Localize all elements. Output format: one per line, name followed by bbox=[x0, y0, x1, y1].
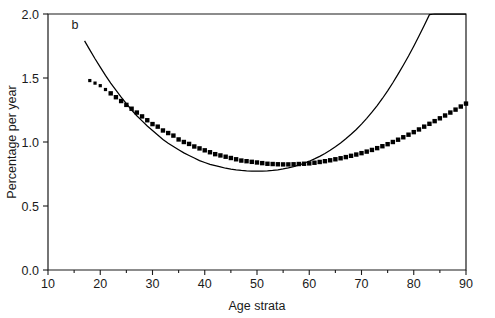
data-point-marker bbox=[318, 160, 322, 164]
y-tick-label: 2.0 bbox=[22, 8, 39, 22]
data-point-marker bbox=[161, 128, 165, 132]
data-point-marker bbox=[140, 114, 144, 118]
data-point-markers bbox=[88, 79, 468, 167]
data-point-marker bbox=[229, 156, 233, 160]
data-point-marker bbox=[281, 162, 285, 166]
data-point-marker bbox=[396, 138, 400, 142]
y-axis-tick-labels: 0.00.51.01.52.0 bbox=[22, 8, 39, 278]
data-point-marker bbox=[406, 133, 410, 137]
y-tick-label: 0.0 bbox=[22, 264, 39, 278]
data-point-marker bbox=[109, 91, 113, 95]
data-point-marker bbox=[187, 142, 191, 146]
data-point-marker bbox=[223, 155, 227, 159]
data-point-marker bbox=[375, 146, 379, 150]
data-point-marker bbox=[192, 144, 196, 148]
panel-label-b: b bbox=[72, 18, 79, 32]
x-tick-label: 50 bbox=[250, 277, 264, 291]
data-point-marker bbox=[291, 162, 295, 166]
data-point-marker bbox=[349, 154, 353, 158]
x-tick-label: 30 bbox=[146, 277, 160, 291]
x-axis-tick-marks bbox=[48, 270, 466, 275]
x-axis-tick-labels: 102030405060708090 bbox=[41, 277, 473, 291]
data-point-marker bbox=[145, 118, 149, 122]
data-point-marker bbox=[88, 79, 91, 82]
x-tick-label: 70 bbox=[355, 277, 369, 291]
data-point-marker bbox=[150, 122, 154, 126]
data-point-marker bbox=[438, 116, 442, 120]
data-point-marker bbox=[412, 130, 416, 134]
data-point-marker bbox=[166, 131, 170, 135]
data-point-marker bbox=[255, 160, 259, 164]
x-tick-label: 90 bbox=[459, 277, 473, 291]
data-point-marker bbox=[312, 161, 316, 165]
data-point-marker bbox=[338, 156, 342, 160]
data-point-marker bbox=[208, 150, 212, 154]
data-point-marker bbox=[286, 162, 290, 166]
data-point-marker bbox=[422, 124, 426, 128]
data-point-marker bbox=[302, 162, 306, 166]
y-tick-label: 0.5 bbox=[22, 200, 39, 214]
data-point-marker bbox=[93, 82, 96, 85]
data-point-marker bbox=[328, 158, 332, 162]
data-point-marker bbox=[135, 110, 139, 114]
data-point-marker bbox=[443, 113, 447, 117]
data-point-marker bbox=[276, 162, 280, 166]
data-point-marker bbox=[104, 88, 107, 91]
data-point-marker bbox=[297, 162, 301, 166]
y-tick-label: 1.0 bbox=[22, 136, 39, 150]
y-axis-title: Percentage per year bbox=[5, 85, 19, 198]
data-point-marker bbox=[432, 119, 436, 123]
x-tick-label: 60 bbox=[302, 277, 316, 291]
data-point-marker bbox=[244, 159, 248, 163]
data-point-marker bbox=[176, 137, 180, 141]
data-point-marker bbox=[250, 160, 254, 164]
y-axis-tick-marks bbox=[43, 14, 48, 270]
data-point-marker bbox=[114, 95, 118, 99]
data-point-marker bbox=[344, 155, 348, 159]
data-point-marker bbox=[129, 107, 133, 111]
fitted-curve-path bbox=[85, 14, 466, 171]
data-point-marker bbox=[213, 152, 217, 156]
data-point-marker bbox=[307, 161, 311, 165]
data-point-marker bbox=[234, 157, 238, 161]
data-point-marker bbox=[265, 162, 269, 166]
data-point-marker bbox=[182, 140, 186, 144]
data-point-marker bbox=[156, 124, 160, 128]
data-point-marker bbox=[427, 122, 431, 126]
plot-frame bbox=[48, 14, 466, 270]
data-point-marker bbox=[333, 157, 337, 161]
data-point-marker bbox=[453, 107, 457, 111]
data-point-marker bbox=[385, 142, 389, 146]
data-point-marker bbox=[239, 158, 243, 162]
chart-canvas: 102030405060708090 0.00.51.01.52.0 Age s… bbox=[0, 0, 495, 318]
x-tick-label: 20 bbox=[93, 277, 107, 291]
data-point-marker bbox=[218, 153, 222, 157]
data-point-marker bbox=[464, 101, 468, 105]
data-point-marker bbox=[370, 148, 374, 152]
data-point-marker bbox=[260, 161, 264, 165]
data-point-marker bbox=[119, 99, 123, 103]
data-point-marker bbox=[365, 149, 369, 153]
data-point-marker bbox=[270, 162, 274, 166]
data-point-marker bbox=[401, 135, 405, 139]
data-point-marker bbox=[391, 140, 395, 144]
data-point-marker bbox=[197, 146, 201, 150]
data-point-marker bbox=[203, 148, 207, 152]
data-point-marker bbox=[124, 103, 128, 107]
y-tick-label: 1.5 bbox=[22, 72, 39, 86]
data-point-marker bbox=[171, 133, 175, 137]
data-point-marker bbox=[380, 144, 384, 148]
data-point-marker bbox=[417, 127, 421, 131]
x-tick-label: 80 bbox=[407, 277, 421, 291]
x-tick-label: 40 bbox=[198, 277, 212, 291]
data-point-marker bbox=[99, 84, 102, 87]
data-point-marker bbox=[359, 151, 363, 155]
data-point-marker bbox=[354, 152, 358, 156]
figure-panel-b: 102030405060708090 0.00.51.01.52.0 Age s… bbox=[0, 0, 495, 318]
x-axis-title: Age strata bbox=[229, 299, 286, 313]
data-point-marker bbox=[448, 110, 452, 114]
data-point-marker bbox=[323, 159, 327, 163]
data-point-marker bbox=[459, 104, 463, 108]
x-tick-label: 10 bbox=[41, 277, 55, 291]
